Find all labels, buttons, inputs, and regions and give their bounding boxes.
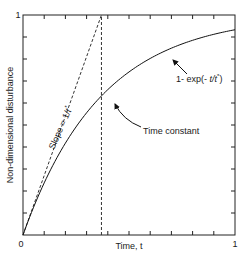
time-constant-label: Time constant [143,126,200,136]
curve-label: 1- exp(- t/t*) [176,73,222,84]
axis-ticks [23,15,235,235]
x-tick-label-0: 0 [18,239,23,249]
curve-label-arrow [173,60,187,74]
y-tick-label-1: 1 [15,10,20,20]
x-axis-label: Time, t [115,241,143,251]
plot-frame [23,15,235,235]
time-constant-arrow [115,104,141,127]
slope-label: Slope = 1/t* [46,104,75,151]
y-axis-label: Non-dimensional disturbance [5,67,15,184]
chart: 1- exp(- t/t*) Time constant Slope = 1/t… [0,0,249,258]
x-tick-label-1: 1 [232,239,237,249]
